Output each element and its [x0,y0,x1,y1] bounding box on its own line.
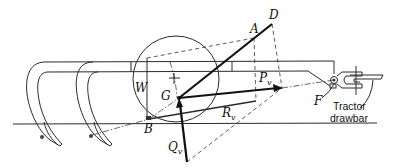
dashed-D-to-Pv [272,24,282,88]
label-Pv: Pv [258,71,272,87]
point-B-marker [146,116,151,120]
label-W: W [135,81,149,95]
point-G-marker [177,96,181,100]
label-Rv: Rv [221,106,236,122]
dashed-Qv-to-Pv [187,88,282,162]
force-vector-Pv [179,88,278,98]
F-leader [322,84,334,98]
label-D: D [268,8,279,22]
label-G: G [161,89,171,103]
label-A: A [249,22,259,36]
caption-drawbar: drawbar [330,112,368,124]
force-vector-Rv [149,101,256,119]
ground-line [13,123,377,124]
crosshair-icon [169,73,180,84]
dashed-W-to-A [147,38,254,58]
label-Qv: Qv [168,140,183,156]
hitch-clevis [330,72,362,88]
implement-force-diagram: A D G B W F Pv Rv Qv Tractor drawbar [0,0,393,168]
caption-tractor: Tractor [333,100,366,112]
tractor-drawbar [350,66,383,95]
tine-2 [76,62,112,146]
tine-point [40,135,44,139]
label-B: B [143,122,153,136]
label-F: F [313,94,323,108]
line-of-draft-lower [92,119,149,135]
tine-1 [27,62,62,146]
dashed-A-vertical [254,38,256,101]
diagram-canvas: A D G B W F Pv Rv Qv Tractor drawbar [0,0,393,168]
